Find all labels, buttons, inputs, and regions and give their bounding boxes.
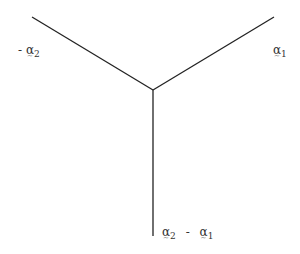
alpha-glyph: α (162, 225, 170, 239)
alpha-symbol: α (162, 226, 170, 238)
label-alpha2-minus-alpha1: α2 - α1 (162, 226, 213, 238)
subscript: 2 (170, 231, 176, 241)
label-minus-alpha2: - α2 (18, 44, 40, 56)
alpha-glyph: α (200, 225, 208, 239)
ray-alpha1 (153, 17, 274, 90)
alpha-symbol: α (26, 44, 34, 56)
subscript: 1 (281, 49, 287, 59)
alpha-symbol: α (200, 226, 208, 238)
subscript: 2 (34, 49, 40, 59)
alpha-glyph: α (273, 43, 281, 57)
label-alpha1: α1 (273, 44, 287, 56)
subscript: 1 (208, 231, 214, 241)
minus-sign: - (18, 43, 22, 57)
alpha-glyph: α (26, 43, 34, 57)
minus-sign: - (186, 225, 190, 239)
diagram-canvas (0, 0, 300, 254)
ray-minus-alpha2 (32, 17, 153, 90)
alpha-symbol: α (273, 44, 281, 56)
